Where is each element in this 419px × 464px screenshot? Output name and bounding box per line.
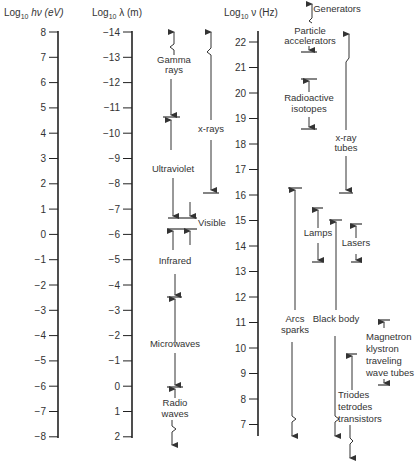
frequency-tick-label: 21	[235, 62, 247, 73]
svg-text:wave tubes: wave tubes	[365, 367, 414, 378]
svg-text:waves: waves	[161, 408, 189, 419]
wavelength-tick-label: −13	[103, 52, 120, 63]
svg-text:tetrodes: tetrodes	[338, 401, 373, 412]
frequency-axis-title: Log10 ν (Hz)	[224, 7, 278, 20]
label-triodes: Triodes	[338, 389, 370, 400]
label-x-rays: x-rays	[198, 123, 224, 134]
frequency-tick-label: 9	[240, 368, 246, 379]
energy-tick-label: −6	[35, 381, 47, 392]
label-visible: Visible	[198, 217, 226, 228]
frequency-tick-label: 13	[235, 266, 247, 277]
label-black-body: Black body	[313, 313, 360, 324]
label-ultraviolet: Ultraviolet	[152, 163, 195, 174]
energy-tick-label: −8	[35, 431, 47, 442]
wavelength-tick-label: −12	[103, 77, 120, 88]
wavelength-tick-label: −6	[109, 229, 121, 240]
energy-tick-label: −1	[35, 254, 47, 265]
energy-tick-label: 4	[40, 128, 46, 139]
label-microwaves: Microwaves	[150, 338, 200, 349]
frequency-tick-label: 16	[235, 190, 247, 201]
radiation-types: Gamma rays x-rays Ultraviolet Visible In…	[150, 32, 226, 445]
wavelength-tick-label: −3	[109, 305, 121, 316]
frequency-tick-label: 18	[235, 139, 247, 150]
svg-text:accelerators: accelerators	[284, 35, 336, 46]
label-arcs-sparks: Arcs	[286, 313, 305, 324]
frequency-tick-label: 15	[235, 215, 247, 226]
frequency-tick-label: 17	[235, 164, 247, 175]
wavelength-tick-label: −14	[103, 27, 120, 38]
frequency-tick-label: 22	[235, 37, 247, 48]
energy-tick-label: −2	[35, 280, 47, 291]
svg-text:isotopes: isotopes	[291, 103, 327, 114]
energy-tick-label: −5	[35, 355, 47, 366]
energy-tick-label: −7	[35, 406, 47, 417]
energy-tick-label: −4	[35, 330, 47, 341]
label-infrared: Infrared	[159, 255, 192, 266]
wavelength-axis-title: Log10 λ (m)	[92, 7, 142, 20]
energy-axis-title: Log10 hν (eV)	[4, 7, 64, 20]
energy-axis: Log10 hν (eV) 876543210−1−2−3−4−5−6−7−8	[4, 7, 64, 442]
wavelength-axis: Log10 λ (m) −14−13−12−11−10−9−8−7−6−5−4−…	[92, 7, 142, 442]
label-lamps: Lamps	[304, 227, 333, 238]
svg-text:klystron: klystron	[366, 343, 399, 354]
generators-header: Generators	[313, 3, 361, 14]
wavelength-tick-label: −2	[109, 330, 121, 341]
energy-tick-label: 1	[40, 204, 46, 215]
label-lasers: Lasers	[342, 237, 371, 248]
wavelength-tick-label: −11	[104, 102, 121, 113]
energy-tick-label: 7	[40, 52, 46, 63]
energy-tick-label: 2	[40, 178, 46, 189]
svg-text:sparks: sparks	[281, 324, 309, 335]
frequency-tick-label: 14	[235, 241, 247, 252]
energy-tick-label: −3	[35, 305, 47, 316]
energy-tick-label: 3	[40, 153, 46, 164]
wavelength-tick-label: −5	[109, 254, 121, 265]
wavelength-tick-label: −10	[103, 128, 120, 139]
wavelength-tick-label: −4	[109, 280, 121, 291]
svg-text:tubes: tubes	[334, 142, 357, 153]
wavelength-tick-label: 1	[114, 406, 120, 417]
label-radioactive-isotopes: Radioactive	[284, 92, 334, 103]
frequency-tick-label: 12	[235, 292, 247, 303]
frequency-axis: Log10 ν (Hz) 222120191817161514131211109…	[224, 7, 278, 436]
wavelength-tick-label: 2	[114, 431, 120, 442]
svg-text:traveling: traveling	[366, 355, 402, 366]
frequency-tick-label: 19	[235, 113, 247, 124]
frequency-tick-label: 11	[236, 317, 247, 328]
frequency-tick-label: 10	[235, 343, 247, 354]
frequency-tick-label: 8	[240, 394, 246, 405]
generators: Generators Particle accelerators Radioac…	[281, 3, 414, 458]
energy-tick-label: 5	[40, 102, 46, 113]
svg-text:rays: rays	[165, 64, 183, 75]
energy-tick-label: 6	[40, 77, 46, 88]
svg-text:transistors: transistors	[338, 413, 382, 424]
frequency-tick-label: 7	[240, 419, 246, 430]
energy-tick-label: 8	[40, 27, 46, 38]
label-radio-waves: Radio	[163, 397, 188, 408]
frequency-tick-label: 20	[235, 88, 247, 99]
em-spectrum-diagram: Log10 hν (eV) 876543210−1−2−3−4−5−6−7−8 …	[0, 0, 419, 464]
wavelength-tick-label: −8	[109, 178, 121, 189]
wavelength-tick-label: −9	[109, 153, 121, 164]
energy-tick-label: 0	[40, 229, 46, 240]
wavelength-tick-label: −1	[109, 355, 121, 366]
wavelength-tick-label: 0	[114, 381, 120, 392]
wavelength-tick-label: −7	[109, 204, 121, 215]
label-magnetron: Magnetron	[366, 331, 411, 342]
